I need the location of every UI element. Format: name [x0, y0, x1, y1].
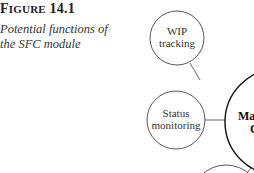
node-wip-tracking: WIP tracking [150, 11, 204, 65]
node-bottom [191, 165, 254, 173]
functions-diagram: WIP tracking Status monitoring Mat C [0, 0, 254, 173]
node-center: Mat C [225, 69, 254, 173]
node-status-monitoring: Status monitoring [147, 91, 205, 149]
svg-text:Status: Status [163, 107, 190, 119]
svg-text:tracking: tracking [159, 37, 196, 49]
svg-text:Mat: Mat [238, 109, 254, 123]
svg-text:WIP: WIP [167, 25, 187, 37]
svg-text:C: C [250, 122, 254, 136]
svg-text:monitoring: monitoring [152, 119, 201, 131]
connector-wip [190, 63, 200, 80]
